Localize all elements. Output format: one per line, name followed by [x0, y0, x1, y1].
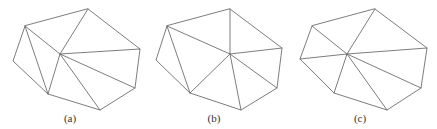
edge-A-P: [312, 26, 347, 54]
edge-A-C: [167, 26, 190, 93]
triangulation-edges: [25, 9, 140, 110]
edge-E-P: [60, 54, 135, 88]
caption-c: (c): [354, 112, 367, 125]
polygon-hull: [13, 9, 140, 110]
triangulation-edges: [167, 9, 282, 110]
caption-b: (b): [208, 112, 221, 125]
edge-B-P: [300, 54, 347, 59]
edge-C-P: [48, 54, 60, 94]
figure-c: (c): [300, 9, 427, 125]
edge-D-P: [60, 54, 100, 110]
edge-F-P: [347, 48, 427, 54]
edge-A-P: [25, 26, 60, 54]
edge-E-P: [347, 54, 421, 88]
caption-a: (a): [64, 112, 77, 125]
edge-D-P: [230, 54, 241, 110]
polygon-hull: [156, 9, 282, 110]
edge-D-P: [347, 54, 387, 110]
edge-A-C: [25, 26, 48, 94]
edge-C-P: [334, 54, 347, 93]
edge-A-P: [167, 26, 230, 54]
figure-b: (b): [156, 9, 282, 125]
figure-a: (a): [13, 9, 140, 125]
edge-C-P: [190, 54, 230, 93]
triangulation-diagram: (a) (b) (c): [0, 0, 437, 129]
edge-F-P: [60, 49, 140, 54]
edge-E-P: [230, 54, 277, 88]
edge-F-P: [230, 48, 282, 54]
polygon-hull: [300, 9, 427, 110]
